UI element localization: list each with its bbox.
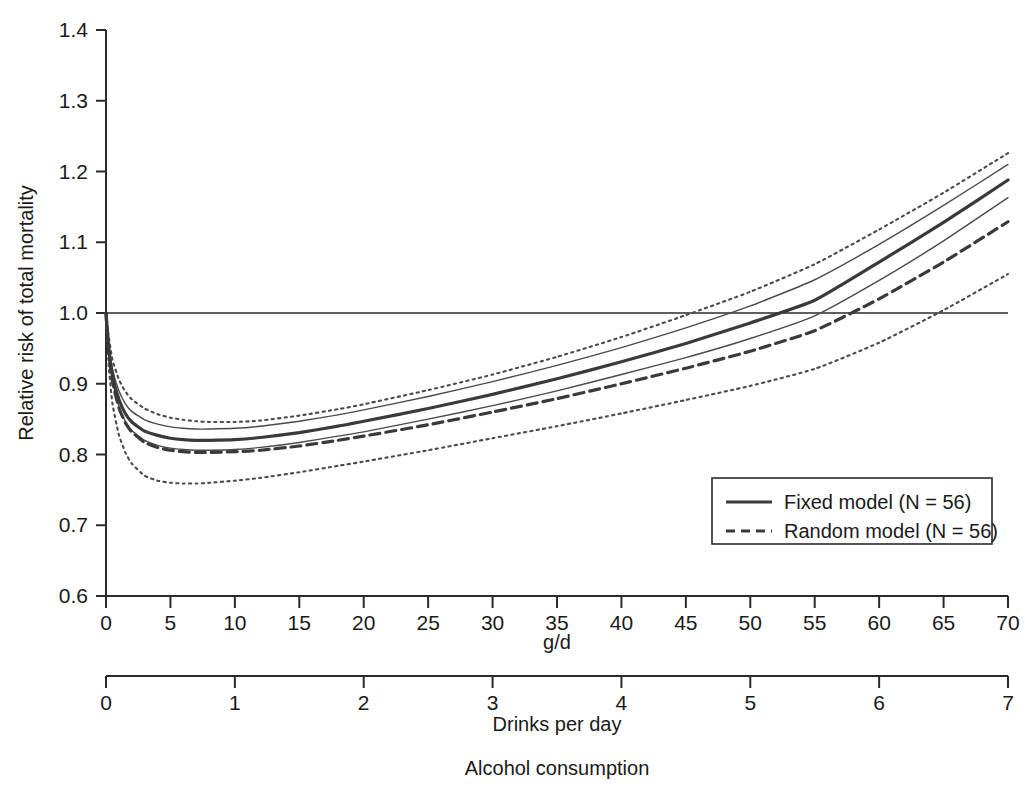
x-tick-label: 70 [996, 611, 1019, 634]
x-tick-label: 30 [481, 611, 504, 634]
x-tick-label: 50 [739, 611, 762, 634]
y-tick-label: 1.3 [59, 89, 88, 112]
x-axis-label-gd: g/d [543, 631, 571, 653]
y-tick-label: 1.2 [59, 160, 88, 183]
curve-random-model-upper-95-ci [106, 153, 1008, 422]
x2-tick-label: 6 [873, 691, 885, 714]
y-tick-label: 1.1 [59, 230, 88, 253]
x-tick-label: 5 [165, 611, 177, 634]
x-tick-label: 45 [674, 611, 697, 634]
y-tick-label: 1.4 [59, 18, 89, 41]
chart-canvas: Relative risk of total mortality 0.60.70… [0, 0, 1025, 795]
y-axis-label: Relative risk of total mortality [15, 185, 37, 441]
y-axis-ticks: 0.60.70.80.91.01.11.21.31.4 [59, 18, 106, 607]
x-axis-ticks-drinks: 01234567 [100, 676, 1014, 714]
x-axis-label-drinks: Drinks per day [493, 713, 622, 735]
x-tick-label: 20 [352, 611, 375, 634]
x-axis-ticks-gd: 0510152025303540455055606570 [100, 596, 1020, 634]
figure-caption: Alcohol consumption [465, 757, 650, 779]
x2-tick-label: 2 [358, 691, 370, 714]
curve-fixed-model-lower-95-ci [106, 198, 1008, 451]
curve-fixed-model-upper-95-ci [106, 164, 1008, 429]
x-tick-label: 40 [610, 611, 633, 634]
legend-label-fixed-model: Fixed model (N = 56) [784, 491, 971, 513]
x2-tick-label: 5 [744, 691, 756, 714]
x-tick-label: 15 [288, 611, 311, 634]
x2-tick-label: 0 [100, 691, 112, 714]
legend-label-random-model: Random model (N = 56) [784, 520, 998, 542]
y-tick-label: 0.8 [59, 443, 88, 466]
x2-tick-label: 3 [487, 691, 499, 714]
curve-fixed-model-n-56 [106, 180, 1008, 440]
legend[interactable]: Fixed model (N = 56) Random model (N = 5… [712, 478, 998, 544]
y-tick-label: 0.7 [59, 513, 88, 536]
figure-alcohol-mortality: Relative risk of total mortality 0.60.70… [0, 0, 1025, 795]
x2-tick-label: 1 [229, 691, 241, 714]
x-tick-label: 10 [223, 611, 246, 634]
y-tick-label: 0.6 [59, 584, 88, 607]
y-tick-label: 0.9 [59, 372, 88, 395]
curve-random-model-n-56 [106, 222, 1008, 453]
x-tick-label: 25 [416, 611, 439, 634]
x2-tick-label: 4 [616, 691, 628, 714]
y-tick-label: 1.0 [59, 301, 88, 324]
x-tick-label: 55 [803, 611, 826, 634]
x-tick-label: 0 [100, 611, 112, 634]
x-tick-label: 60 [867, 611, 890, 634]
x-tick-label: 65 [932, 611, 955, 634]
curve-group [106, 153, 1008, 483]
x2-tick-label: 7 [1002, 691, 1014, 714]
